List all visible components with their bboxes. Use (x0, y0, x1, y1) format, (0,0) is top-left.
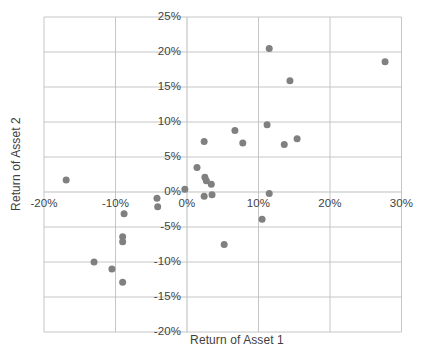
data-point (91, 259, 98, 266)
data-point (154, 203, 161, 210)
scatter-chart: Return of Asset 2 Return of Asset 1 25%2… (0, 0, 424, 357)
x-tick-label: 30% (377, 197, 424, 209)
x-tick-label: 10% (234, 197, 284, 209)
x-tick-label: 20% (305, 197, 355, 209)
y-tick-label: -10% (129, 255, 181, 267)
data-point (286, 77, 293, 84)
y-tick-label: -20% (129, 325, 181, 337)
data-point (119, 238, 126, 245)
data-point (264, 121, 271, 128)
y-tick-label: -15% (129, 290, 181, 302)
data-point (382, 58, 389, 65)
y-tick-label: 5% (129, 150, 181, 162)
y-tick-label: 0% (129, 185, 181, 197)
data-point (121, 210, 128, 217)
x-tick-label: -10% (91, 197, 141, 209)
data-point (266, 45, 273, 52)
data-point (63, 177, 70, 184)
data-point (221, 241, 228, 248)
data-point (194, 164, 201, 171)
x-tick-label: -20% (19, 197, 69, 209)
y-tick-label: 10% (129, 115, 181, 127)
data-point (266, 190, 273, 197)
x-tick-label: 0% (162, 197, 212, 209)
y-tick-label: 25% (129, 10, 181, 22)
data-point (239, 140, 246, 147)
data-point (231, 127, 238, 134)
plot-area (0, 0, 424, 357)
data-point (201, 138, 208, 145)
data-point (259, 216, 266, 223)
data-point (108, 266, 115, 273)
y-tick-label: -5% (129, 220, 181, 232)
y-axis-title: Return of Asset 2 (9, 94, 23, 234)
y-tick-label: 15% (129, 80, 181, 92)
data-point (208, 181, 215, 188)
data-point (294, 135, 301, 142)
data-point (181, 186, 188, 193)
data-point (281, 141, 288, 148)
y-tick-label: 20% (129, 45, 181, 57)
data-point (119, 279, 126, 286)
